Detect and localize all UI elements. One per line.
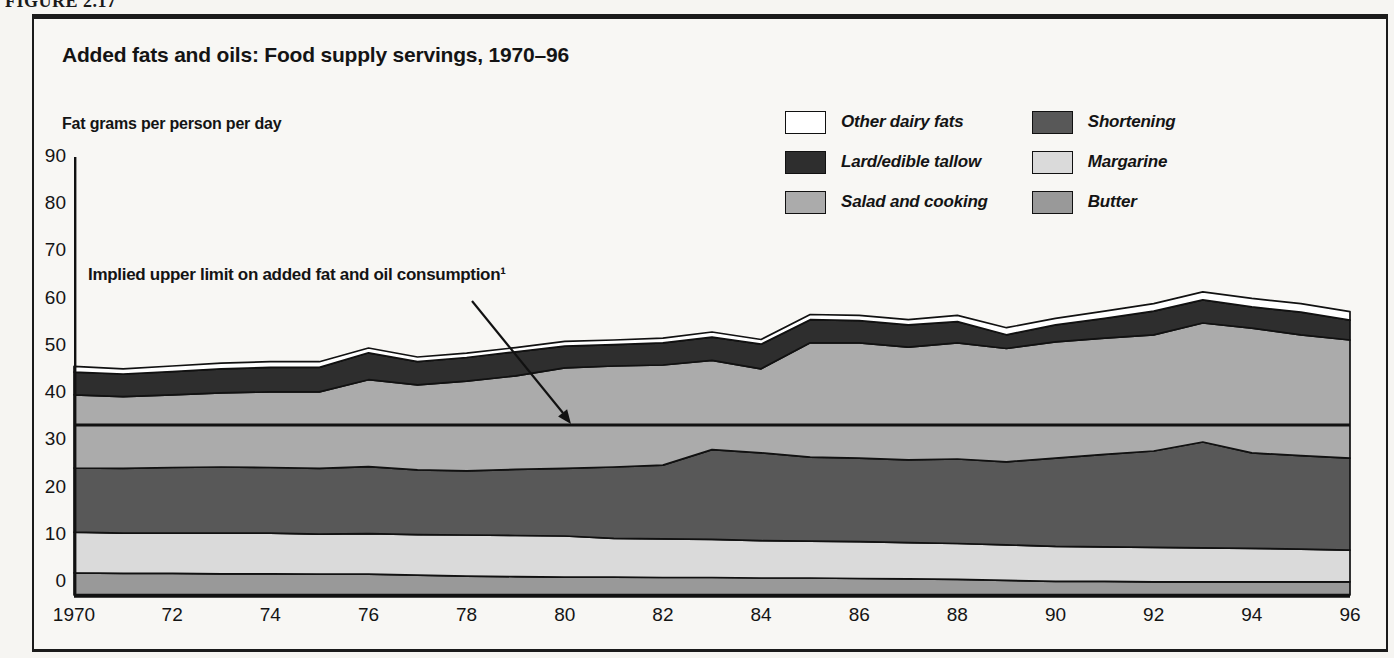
y-tick-label: 10 [36, 523, 66, 545]
x-tick-label: 78 [456, 604, 477, 626]
figure-label: FIGURE 2.17 [5, 0, 225, 13]
x-tick-label: 74 [260, 604, 281, 626]
figure-frame: Added fats and oils: Food supply serving… [32, 14, 1388, 652]
legend-item-label: Other dairy fats [841, 112, 963, 132]
plot-svg [74, 155, 1354, 599]
x-tick-label: 86 [849, 604, 870, 626]
x-tick-label: 96 [1339, 604, 1360, 626]
figure-label-text: FIGURE 2.17 [5, 0, 117, 12]
x-tick-label: 82 [652, 604, 673, 626]
y-tick-label: 60 [36, 287, 66, 309]
chart-title: Added fats and oils: Food supply serving… [62, 43, 569, 67]
x-tick-label: 94 [1241, 604, 1262, 626]
y-tick-label: 0 [36, 570, 66, 592]
y-tick-label: 90 [36, 145, 66, 167]
x-tick-label: 1970 [53, 604, 95, 626]
y-axis-unit-label: Fat grams per person per day [62, 115, 281, 133]
legend-swatch [785, 111, 826, 134]
y-tick-label: 70 [36, 239, 66, 261]
x-tick-label: 76 [358, 604, 379, 626]
page: FIGURE 2.17 Added fats and oils: Food su… [0, 0, 1394, 658]
legend-item-label: Shortening [1088, 112, 1176, 132]
x-tick-label: 90 [1045, 604, 1066, 626]
y-tick-label: 20 [36, 476, 66, 498]
x-tick-label: 84 [750, 604, 771, 626]
x-tick-label: 92 [1143, 604, 1164, 626]
y-tick-label: 40 [36, 381, 66, 403]
y-tick-label: 80 [36, 192, 66, 214]
legend-item-other_dairy: Other dairy fats [785, 109, 988, 135]
y-tick-label: 30 [36, 428, 66, 450]
x-tick-label: 72 [162, 604, 183, 626]
legend-item-shortening: Shortening [1032, 109, 1176, 135]
x-tick-label: 80 [554, 604, 575, 626]
y-tick-label: 50 [36, 334, 66, 356]
x-tick-label: 88 [947, 604, 968, 626]
plot-area [74, 155, 1354, 599]
legend-swatch [1032, 111, 1073, 134]
